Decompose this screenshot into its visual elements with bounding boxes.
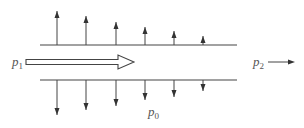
arrowhead-icon <box>114 99 119 106</box>
outward-pressure-arrows-bottom <box>55 80 206 115</box>
ambient-pressure-label: p0 <box>148 105 159 121</box>
outward-pressure-arrows-top <box>55 11 206 45</box>
arrowhead-icon <box>114 22 119 29</box>
arrowhead-icon <box>143 27 148 34</box>
arrowhead-icon <box>84 103 89 110</box>
porous-pipe-diagram: p1 p2 p0 <box>0 0 304 128</box>
arrowhead-icon <box>84 16 89 23</box>
arrowhead-icon <box>172 31 177 38</box>
arrowhead-icon <box>55 11 60 18</box>
arrowhead-icon <box>172 90 177 97</box>
arrowhead-icon <box>201 84 206 91</box>
inlet-pressure-label: p1 <box>12 55 23 71</box>
arrowhead-icon <box>55 108 60 115</box>
hollow-flow-arrow-icon <box>26 55 134 69</box>
outlet-pressure-label: p2 <box>253 55 264 71</box>
arrowhead-icon <box>201 36 206 43</box>
outlet-flow-arrow-icon <box>268 60 295 65</box>
arrowhead-icon <box>143 93 148 100</box>
